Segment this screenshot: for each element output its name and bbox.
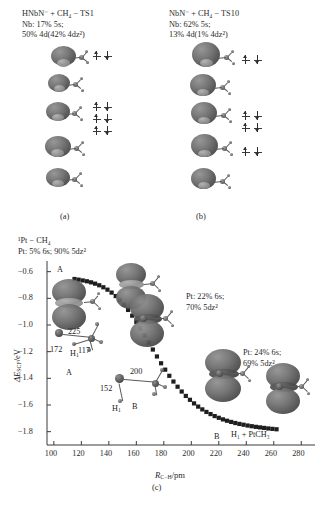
bond [228,58,232,62]
atom [82,153,85,156]
bond [147,318,164,319]
bond [228,53,232,57]
bond [76,180,80,184]
data-point [85,279,89,283]
annotation-right-line2: 69% 5dᴢ² [243,359,281,370]
label-200: 200 [130,367,142,376]
label-152: 152 [100,384,112,393]
data-point [93,282,97,286]
spin-up-arrow [96,114,97,123]
x-tick-label: 180 [155,449,167,458]
bond [77,80,81,84]
atom [171,324,174,327]
figure-root: HNbN⁻ + CH₄ − TS1 Nb: 17% 5s; 50% 4d(42%… [0,0,328,507]
panel-a-orbital-stack [0,44,164,209]
orbital-lobe [198,150,211,157]
data-point [229,420,233,424]
label-A-curve: A [57,265,63,274]
y-tick-label: −1.6 [18,400,33,409]
data-point [225,419,229,423]
panel-b-title: NbN⁻ + CH₄ − TS10 Nb: 62% 5s; 13% 4d(1% … [169,9,239,41]
panel-b-title-line2: Nb: 62% 5s; [169,20,239,31]
bond [83,52,87,56]
energy-level [242,60,250,61]
y-axis-title-symbol: ΔE [12,372,22,382]
energy-level [242,116,250,117]
atom [97,292,100,295]
atom [228,186,231,189]
spin-up-arrow [245,147,246,156]
data-point [250,424,254,428]
bond [77,85,81,89]
data-point [208,412,212,416]
energy-level [93,131,101,132]
panel-a-title-line1: HNbN⁻ + CH₄ − TS1 [22,9,94,20]
bond [83,58,88,62]
panel-a-title-line3: 50% 4d(42% 4dᴢ²) [22,30,94,41]
atom [229,120,232,123]
spin-down-arrow [107,102,108,111]
label-172: 172 [50,345,62,354]
atom [158,289,161,292]
data-point [204,410,208,414]
orbital-lobe [52,114,64,121]
data-point [221,417,225,421]
x-axis-title-unit: /pm [172,470,185,480]
y-tick-label: −1.0 [18,320,33,329]
data-point [171,379,175,383]
spin-down-arrow [257,55,258,64]
spin-down-arrow [257,147,258,156]
x-tick-marks [54,441,301,445]
orbital-lobe [130,320,164,347]
data-point [109,291,113,295]
y-tick-label: −0.8 [18,293,33,302]
orbital-lobe [205,375,241,402]
data-point [270,427,274,431]
spin-down-arrow [107,114,108,123]
data-point [254,425,258,429]
bond [78,144,82,148]
label-B-curve: B [214,432,219,441]
atom [228,92,231,95]
orbital-lobe [197,89,209,96]
spin-down-arrow [257,123,258,132]
bond [226,144,230,148]
atom [81,89,84,92]
data-point [200,407,204,411]
data-point [89,280,93,284]
x-tick-label: 100 [45,449,57,458]
y-axis-title: ΔESCF/eV [12,349,22,382]
y-tick-label: −1.8 [18,427,33,436]
spin-down-arrow [107,126,108,135]
x-axis-title-sub: C−H [160,474,171,480]
panel-b-title-line3: 13% 4d(1% 4dᴢ²) [169,30,239,41]
orbital-lobe [200,59,213,67]
panel-a-caption: (a) [60,211,69,221]
x-axis-title: RC−H/pm [155,470,185,480]
y-axis-title-sub: SCF [16,361,22,371]
x-tick-label: 260 [265,449,277,458]
bond [223,373,241,374]
panel-a-title-line2: Nb: 17% 5s; [22,20,94,31]
data-point [184,394,188,398]
bond [224,182,228,186]
bond [224,83,228,87]
spin-down-arrow [257,111,258,120]
bond [224,177,228,181]
orbital-lobe [54,85,65,92]
spin-up-arrow [245,55,246,64]
data-point [151,347,155,351]
data-point [167,374,171,378]
atom [80,118,83,121]
annotation-mid-line1: Pt: 22% 6s; [186,292,224,303]
bond [283,386,300,387]
bond [76,175,80,179]
data-point [105,288,109,292]
data-point [237,422,241,426]
spin-up-arrow [245,123,246,132]
bond [226,149,230,153]
panel-b-caption: (b) [196,211,206,221]
x-tick-label: 280 [292,449,304,458]
data-point [213,414,217,418]
panel-a-title: HNbN⁻ + CH₄ − TS1 Nb: 17% 5s; 50% 4d(42%… [22,9,94,41]
